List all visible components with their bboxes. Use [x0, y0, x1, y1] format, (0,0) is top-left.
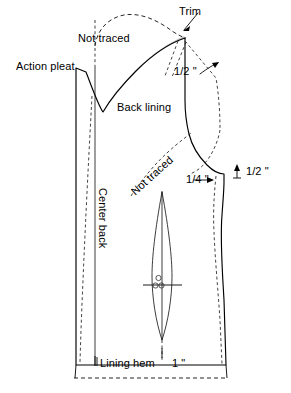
- label-action-pleat: Action pleat: [16, 61, 75, 73]
- label-side-extension: 1/4 ": [186, 174, 209, 186]
- dart-circle-right: [159, 283, 164, 288]
- label-armhole-extension: 1/2 ": [246, 166, 269, 178]
- original-side-seam-dashed: [214, 176, 222, 364]
- label-lining-hem: Lining hem: [100, 358, 155, 370]
- label-back-lining: Back lining: [117, 102, 171, 114]
- label-trim: Trim: [179, 6, 201, 18]
- label-hem-allowance: 1 ": [172, 358, 185, 370]
- armhole-half-inch-arrowhead: [234, 164, 240, 171]
- hem-end-tick-right: [226, 365, 227, 378]
- label-center-back: Center back: [96, 188, 108, 248]
- pattern-drawing: [0, 0, 291, 393]
- label-shoulder-extension: 1/2 ": [174, 66, 197, 78]
- center-back-dashed-guide: [80, 96, 92, 362]
- label-not-traced-top: Not traced: [78, 33, 130, 45]
- hem-end-tick-left: [75, 365, 76, 378]
- dart-circle-left: [153, 283, 158, 288]
- pattern-diagram: Trim Not traced Action pleat 1/2 " Back …: [0, 0, 291, 393]
- original-shoulder-edge-dashed: [185, 41, 220, 130]
- dart-circle-top: [156, 275, 161, 280]
- original-armhole-dashed: [190, 130, 220, 174]
